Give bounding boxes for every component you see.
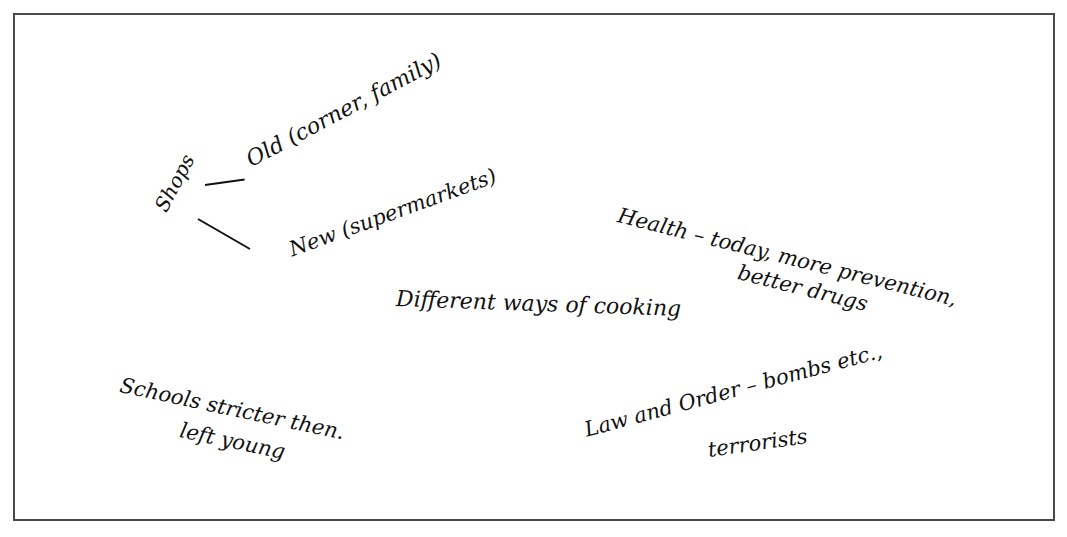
page-frame [13, 13, 1055, 521]
